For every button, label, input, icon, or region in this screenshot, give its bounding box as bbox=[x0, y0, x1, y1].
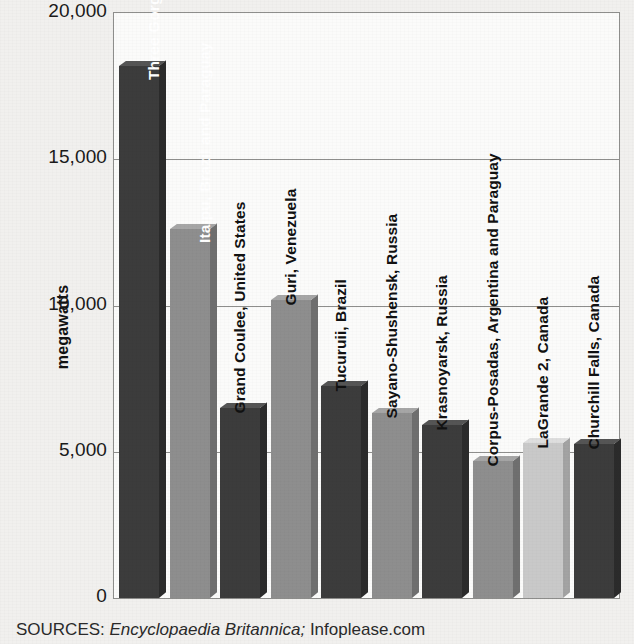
bar-side-shadow bbox=[361, 380, 368, 598]
bar-slot: Grand Coulee, United States bbox=[220, 13, 260, 598]
y-tick-15000: 15,000 bbox=[0, 146, 107, 168]
bar[interactable] bbox=[119, 66, 159, 598]
bar[interactable] bbox=[473, 461, 513, 598]
bar-label: Churchill Falls, Canada bbox=[585, 276, 601, 450]
y-tick-0: 0 bbox=[0, 585, 107, 607]
bar-side-shadow bbox=[513, 455, 520, 598]
bar-label: Krasnoyarsk, Russia bbox=[434, 276, 450, 431]
y-tick-10000: 10,000 bbox=[0, 293, 107, 315]
bar-side-shadow bbox=[614, 438, 621, 598]
bar-label: Itaipu, Brazil and Paraguay bbox=[197, 43, 213, 244]
bar-slot: Corpus-Posadas, Argentina and Paraguay bbox=[473, 13, 513, 598]
bar-slot: Guri, Venezuela bbox=[271, 13, 311, 598]
chart-page: megawatts 20,00015,00010,0005,0000 Three… bbox=[0, 0, 634, 644]
bar-slot: Sayano-Shushensk, Russia bbox=[372, 13, 412, 598]
y-axis-title: megawatts bbox=[54, 252, 72, 402]
bar[interactable] bbox=[523, 443, 563, 598]
bar-slot: LaGrande 2, Canada bbox=[523, 13, 563, 598]
y-tick-20000: 20,000 bbox=[0, 0, 107, 22]
bar-side-shadow bbox=[412, 407, 419, 598]
sources-label: SOURCES: bbox=[16, 620, 105, 639]
bar[interactable] bbox=[271, 300, 311, 598]
bar-label: Three Gorges, China bbox=[146, 0, 162, 80]
sources-note: SOURCES: Encyclopaedia Britannica; Infop… bbox=[16, 620, 425, 640]
bar[interactable] bbox=[321, 386, 361, 598]
bar-slot: Itaipu, Brazil and Paraguay bbox=[170, 13, 210, 598]
bar[interactable] bbox=[170, 229, 210, 598]
bar-slot: Three Gorges, China bbox=[119, 13, 159, 598]
bar-label: Sayano-Shushensk, Russia bbox=[383, 213, 399, 418]
source-britannica: Encyclopaedia Britannica; bbox=[110, 620, 306, 639]
bar[interactable] bbox=[372, 413, 412, 598]
bar-label: LaGrande 2, Canada bbox=[535, 297, 551, 449]
bar-slot: Tucuruii, Brazil bbox=[321, 13, 361, 598]
bar-label: Guri, Venezuela bbox=[282, 188, 298, 305]
bar-series: Three Gorges, ChinaItaipu, Brazil and Pa… bbox=[114, 13, 619, 598]
bar[interactable] bbox=[220, 408, 260, 598]
bar[interactable] bbox=[422, 425, 462, 598]
source-infoplease: Infoplease.com bbox=[310, 620, 425, 639]
bar-side-shadow bbox=[210, 224, 217, 598]
bar-side-shadow bbox=[462, 420, 469, 598]
bar-label: Tucuruii, Brazil bbox=[333, 279, 349, 391]
bar-side-shadow bbox=[159, 60, 166, 598]
y-tick-5000: 5,000 bbox=[0, 439, 107, 461]
bar-side-shadow bbox=[260, 403, 267, 598]
bar-side-shadow bbox=[311, 294, 318, 598]
bar[interactable] bbox=[574, 444, 614, 598]
bar-slot: Churchill Falls, Canada bbox=[574, 13, 614, 598]
bar-side-shadow bbox=[563, 437, 570, 598]
bar-label: Corpus-Posadas, Argentina and Paraguay bbox=[484, 153, 500, 466]
bar-slot: Krasnoyarsk, Russia bbox=[422, 13, 462, 598]
bar-label: Grand Coulee, United States bbox=[232, 202, 248, 414]
